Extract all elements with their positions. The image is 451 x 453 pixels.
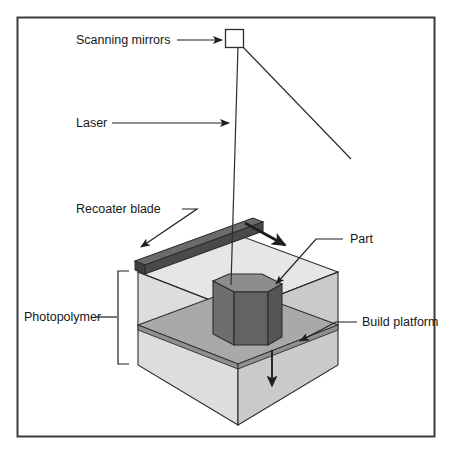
laser-label: Laser: [76, 116, 107, 130]
figure-root: Scanning mirrors Laser Recoater blade Ph…: [0, 0, 451, 453]
build-platform-label: Build platform: [362, 315, 438, 329]
scanning-mirrors-label: Scanning mirrors: [76, 33, 170, 47]
printed-part: [213, 274, 282, 345]
photopolymer-bracket: [118, 271, 129, 364]
laser-beam-incoming: [241, 45, 351, 159]
scanning-mirrors-box: [226, 30, 244, 48]
part-left-face: [213, 281, 234, 345]
part-right-face: [268, 284, 282, 345]
stereolithography-diagram: Scanning mirrors Laser Recoater blade Ph…: [0, 0, 451, 453]
recoater-blade-label: Recoater blade: [76, 202, 161, 216]
part-label: Part: [350, 232, 373, 246]
photopolymer-label: Photopolymer: [24, 310, 101, 324]
part-front-face: [234, 292, 268, 345]
